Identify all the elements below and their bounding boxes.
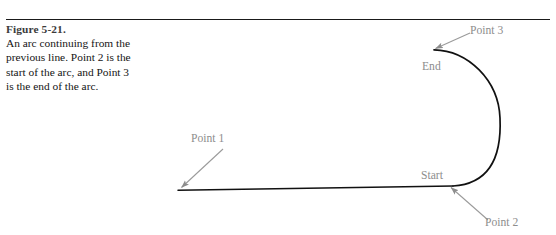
arc-path [434, 50, 500, 186]
figure-page: Figure 5-21. An arc continuing from the … [0, 0, 556, 235]
point3-leader-arrow [436, 33, 471, 49]
straight-line-segment [178, 186, 453, 190]
label-arc-start: Start [421, 170, 443, 182]
label-point-2: Point 2 [485, 217, 518, 229]
point2-leader-arrow [451, 188, 488, 221]
label-point-1: Point 1 [191, 133, 224, 145]
label-point-3: Point 3 [470, 25, 503, 37]
point1-leader-arrow [182, 149, 224, 188]
label-arc-end: End [422, 61, 441, 73]
